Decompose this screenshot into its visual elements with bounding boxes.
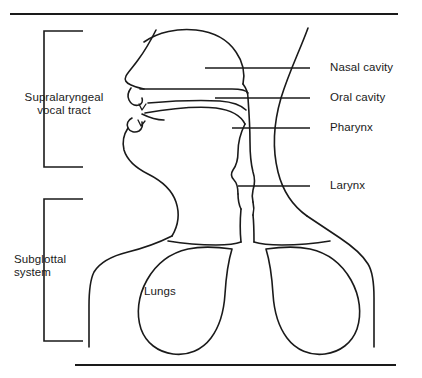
skull-dome-outline: [144, 30, 244, 85]
right-bronchus: [254, 241, 330, 245]
nose-profile: [125, 30, 156, 89]
right-shoulder-torso: [307, 216, 374, 347]
bracket-label-supralaryngeal-vocal-tract: Supralaryngealvocal tract: [10, 91, 118, 117]
pharynx-front-wall: [232, 124, 245, 194]
left-lung: [138, 247, 232, 354]
annotation-label-nasal-cavity: Nasal cavity: [330, 61, 393, 74]
supralaryngeal-line-2: vocal tract: [37, 104, 91, 116]
subglottal-line-2: system: [14, 266, 51, 278]
tongue-surface: [145, 107, 245, 124]
tongue-underside: [142, 114, 164, 120]
soft-palate-velum: [148, 101, 246, 110]
left-bronchus: [168, 241, 241, 245]
supralaryngeal-line-1: Supralaryngeal: [25, 91, 104, 103]
subglottal-line-1: Subglottal: [14, 253, 66, 265]
right-lung: [266, 247, 360, 354]
back-of-head-neck-curve: [274, 28, 308, 216]
upper-teeth: [139, 104, 146, 110]
larynx-front: [238, 194, 241, 209]
trachea-left-wall: [240, 209, 241, 242]
annotation-label-oral-cavity: Oral cavity: [330, 91, 385, 104]
vocal-tract-figure: Supralaryngealvocal tract Subglottalsyst…: [0, 0, 422, 378]
bracket-label-subglottal-system: Subglottalsystem: [14, 253, 104, 279]
larynx-back: [253, 202, 254, 215]
upper-lip: [128, 88, 142, 105]
annotation-label-larynx: Larynx: [330, 179, 365, 192]
hard-palate: [140, 89, 248, 93]
annotation-label-pharynx: Pharynx: [330, 121, 373, 134]
annotation-label-lungs: Lungs: [144, 285, 176, 298]
jaw-chin-neck-outline: [123, 128, 178, 236]
trachea-right-wall: [253, 215, 254, 242]
